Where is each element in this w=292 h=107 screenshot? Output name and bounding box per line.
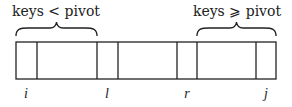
- index-label-i: i: [24, 86, 28, 101]
- left-brace-icon: [16, 22, 97, 36]
- index-label-r: r: [184, 86, 190, 101]
- right-region-label: keys ⩾ pivot: [193, 3, 282, 19]
- left-region-label: keys < pivot: [12, 3, 100, 19]
- index-label-j: j: [262, 86, 268, 101]
- array-box: [16, 42, 276, 79]
- index-label-l: l: [105, 86, 109, 101]
- partition-diagram: keys < pivot keys ⩾ pivot i l r j: [0, 0, 292, 107]
- right-brace-icon: [197, 22, 276, 36]
